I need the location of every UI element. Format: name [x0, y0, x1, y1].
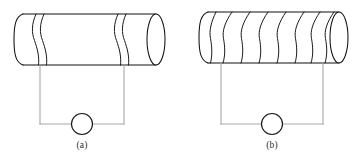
coil-turns-a	[32, 14, 128, 65]
coil-turn-b-2	[241, 12, 250, 63]
coil-turn-a-1	[32, 14, 38, 65]
coil-turn-b-1	[223, 12, 232, 63]
coil-turn-b-6	[311, 12, 320, 63]
coil-turn-b-5	[295, 12, 304, 63]
panel-b-label: (b)	[266, 140, 278, 151]
coil-turn-b-4	[277, 12, 286, 63]
coil-turn-b-3	[259, 12, 268, 63]
cylinder-b-left-cap	[199, 12, 208, 63]
meter-b	[262, 114, 283, 135]
coil-turn-b-8	[210, 12, 216, 63]
cylinder-a-right-cap	[147, 14, 165, 65]
circuit-a	[40, 65, 124, 135]
cylinder-a-left-cap	[14, 14, 23, 65]
figure-container: (a)	[0, 0, 362, 161]
coil-turns-b	[210, 12, 334, 63]
panel-a: (a)	[14, 14, 165, 151]
figure-svg: (a)	[0, 0, 362, 161]
cylinder-b-right-cap	[330, 12, 348, 63]
cylinder-a	[14, 14, 165, 65]
meter-a	[72, 114, 93, 135]
coil-turn-a-2	[40, 14, 46, 65]
circuit-b	[221, 63, 323, 135]
panel-a-label: (a)	[76, 140, 87, 151]
coil-turn-a-3	[114, 14, 120, 65]
coil-turn-a-4	[122, 14, 128, 65]
panel-b: (b)	[199, 12, 348, 151]
